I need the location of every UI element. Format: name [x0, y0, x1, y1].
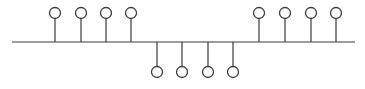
node-circle-top-8	[331, 8, 342, 19]
node-circle-top-2	[76, 8, 87, 19]
node-circle-bottom-3	[203, 67, 214, 78]
node-circle-top-6	[280, 8, 291, 19]
node-circle-top-3	[101, 8, 112, 19]
node-circle-top-5	[254, 8, 265, 19]
bus-topology-diagram	[0, 0, 365, 89]
node-circle-top-4	[126, 8, 137, 19]
node-circle-bottom-1	[152, 67, 163, 78]
node-circle-bottom-4	[228, 67, 239, 78]
node-circle-top-1	[50, 8, 61, 19]
node-circle-bottom-2	[177, 67, 188, 78]
node-circle-top-7	[306, 8, 317, 19]
